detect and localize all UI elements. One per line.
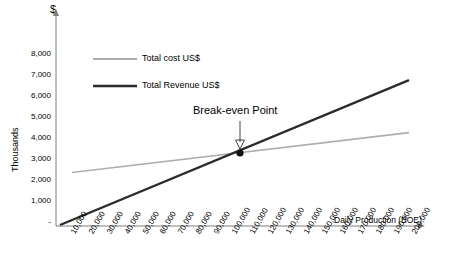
series-line-total-revenue [60, 80, 409, 225]
y-axis-arrow-icon [53, 9, 59, 16]
breakeven-marker-dot [236, 149, 243, 156]
breakeven-annotation-label: Break-even Point [193, 104, 277, 116]
breakeven-chart: $ Thousands - 1,000 2,000 3,000 4,000 5,… [0, 0, 453, 276]
plot-area [0, 0, 453, 276]
legend-item-total-cost: Total cost US$ [142, 53, 200, 63]
legend-item-total-revenue: Total Revenue US$ [142, 80, 220, 90]
